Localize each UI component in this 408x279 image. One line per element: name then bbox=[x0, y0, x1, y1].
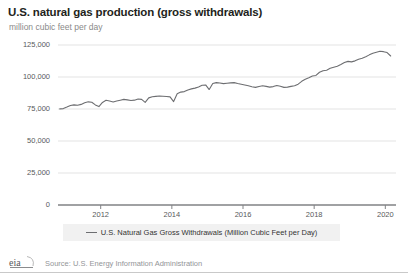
x-axis-tick-label: 2014 bbox=[152, 210, 192, 219]
y-axis-tick-label: 100,000 bbox=[4, 72, 50, 81]
y-axis-tick-label: 50,000 bbox=[4, 136, 50, 145]
legend-item-label: U.S. Natural Gas Gross Withdrawals (Mill… bbox=[101, 228, 318, 237]
y-axis-tick-label: 125,000 bbox=[4, 40, 50, 49]
eia-logo-icon: eia bbox=[8, 254, 38, 270]
y-axis-tick-label: 75,000 bbox=[4, 104, 50, 113]
svg-text:eia: eia bbox=[9, 257, 21, 268]
y-axis-tick-label: 25,000 bbox=[4, 168, 50, 177]
y-axis-tick-label: 0 bbox=[4, 200, 50, 209]
source-attribution: Source: U.S. Energy Information Administ… bbox=[45, 259, 202, 268]
legend-line-swatch-icon bbox=[86, 232, 97, 233]
x-axis-tick-label: 2016 bbox=[223, 210, 263, 219]
x-axis-tick-label: 2020 bbox=[365, 210, 405, 219]
x-axis-tick-label: 2012 bbox=[81, 210, 121, 219]
x-axis-tick-label: 2018 bbox=[294, 210, 334, 219]
footer-divider bbox=[0, 272, 408, 273]
series-line-0 bbox=[60, 51, 391, 109]
legend-item-gross-withdrawals[interactable]: U.S. Natural Gas Gross Withdrawals (Mill… bbox=[86, 228, 318, 237]
chart-page: U.S. natural gas production (gross withd… bbox=[0, 0, 408, 279]
chart-legend: U.S. Natural Gas Gross Withdrawals (Mill… bbox=[63, 224, 340, 241]
